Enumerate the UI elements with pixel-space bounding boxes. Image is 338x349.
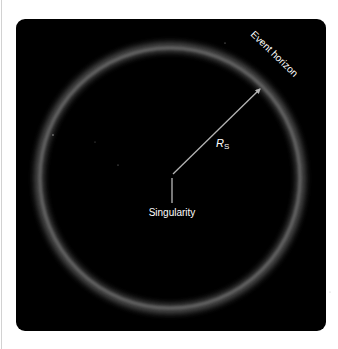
star bbox=[95, 142, 96, 143]
background-stars bbox=[52, 42, 330, 292]
radius-label: RS bbox=[216, 137, 229, 151]
star bbox=[52, 134, 53, 135]
radius-arrow bbox=[173, 89, 260, 174]
star bbox=[117, 164, 118, 165]
star bbox=[224, 42, 225, 43]
star bbox=[329, 291, 330, 292]
singularity-label: Singularity bbox=[149, 207, 196, 218]
black-hole-diagram: RS Singularity Event horizon bbox=[0, 0, 338, 349]
event-horizon-ring bbox=[39, 47, 301, 309]
event-horizon-label: Event horizon bbox=[249, 29, 301, 79]
